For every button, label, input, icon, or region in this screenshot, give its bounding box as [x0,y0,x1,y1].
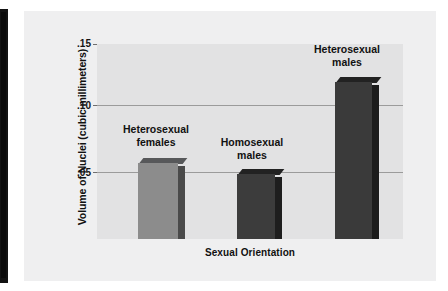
bar-front-face-2 [237,174,275,239]
y-tick-label-10: .10 [49,100,91,111]
x-axis-title: Sexual Orientation [97,247,403,258]
bar-callout-line2-2: males [237,149,267,161]
page-edge-band [0,9,8,283]
bar-side-face-2 [275,177,282,239]
bar-callout-line1-2: Homosexual [221,136,283,148]
bar-side-face-3 [372,85,379,239]
bar-heterosexual-females[interactable] [138,163,178,239]
bar-heterosexual-males[interactable] [335,82,372,239]
bar-callout-line1-1: Heterosexual [123,123,189,135]
bar-callout-line2-1: females [136,136,175,148]
bar-front-face-1 [138,163,178,239]
bar-side-face-1 [178,166,185,239]
bar-callout-line2-3: males [332,56,362,68]
chart-figure: Volume of Nuclei (cubic millimeters) .15… [0,0,448,291]
bar-callout-heterosexual-males: Heterosexual males [307,43,387,68]
y-tick-label-05: .05 [49,167,91,178]
bar-callout-line1-3: Heterosexual [314,43,380,55]
bar-callout-homosexual-males: Homosexual males [212,136,292,161]
y-tick-label-15: .15 [49,38,91,49]
bar-homosexual-males[interactable] [237,174,275,239]
y-axis-title: Volume of Nuclei (cubic millimeters) [76,31,88,243]
bar-front-face-3 [335,82,372,239]
page-edge-band-inner [1,12,6,278]
bar-callout-heterosexual-females: Heterosexual females [116,123,196,148]
figure-panel: Volume of Nuclei (cubic millimeters) .15… [24,11,436,281]
